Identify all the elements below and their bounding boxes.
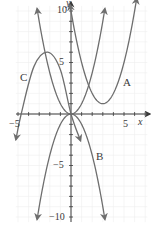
y-tick-neg5: −5 [53,159,64,170]
x-tick-neg5: −5 [9,118,20,129]
y-tick-5: 5 [59,56,64,67]
label-c: C [20,71,27,83]
y-axis-label: y [65,0,71,8]
y-tick-neg10: −10 [49,211,65,222]
x-axis-label: x [137,116,143,127]
label-b: B [96,150,103,162]
graph: 10 5 −5 −10 −5 5 x y A B C [0,0,154,229]
x-tick-5: 5 [123,118,128,129]
label-a: A [123,76,131,88]
